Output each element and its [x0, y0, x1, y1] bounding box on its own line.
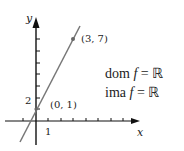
point-label-3-7: (3, 7) [81, 33, 108, 44]
dom-prefix: dom [105, 66, 133, 81]
y-axis-arrow-icon [33, 17, 40, 28]
domain-annotation: dom f = ℝ [105, 65, 163, 82]
ima-rest: = ℝ [133, 85, 159, 100]
function-line [20, 26, 80, 142]
ima-prefix: ima [105, 85, 130, 100]
x-tick-label: 1 [45, 126, 51, 137]
y-tick-label: 2 [25, 95, 31, 106]
point-label-0-1: (0, 1) [50, 99, 77, 110]
y-axis-label: y [25, 12, 33, 25]
x-axis-label: x [137, 126, 144, 139]
dom-rest: = ℝ [137, 66, 163, 81]
image-annotation: ima f = ℝ [105, 84, 159, 101]
point-3-7 [71, 37, 75, 41]
x-axis-arrow-icon [131, 118, 140, 124]
point-0-1 [34, 107, 37, 110]
